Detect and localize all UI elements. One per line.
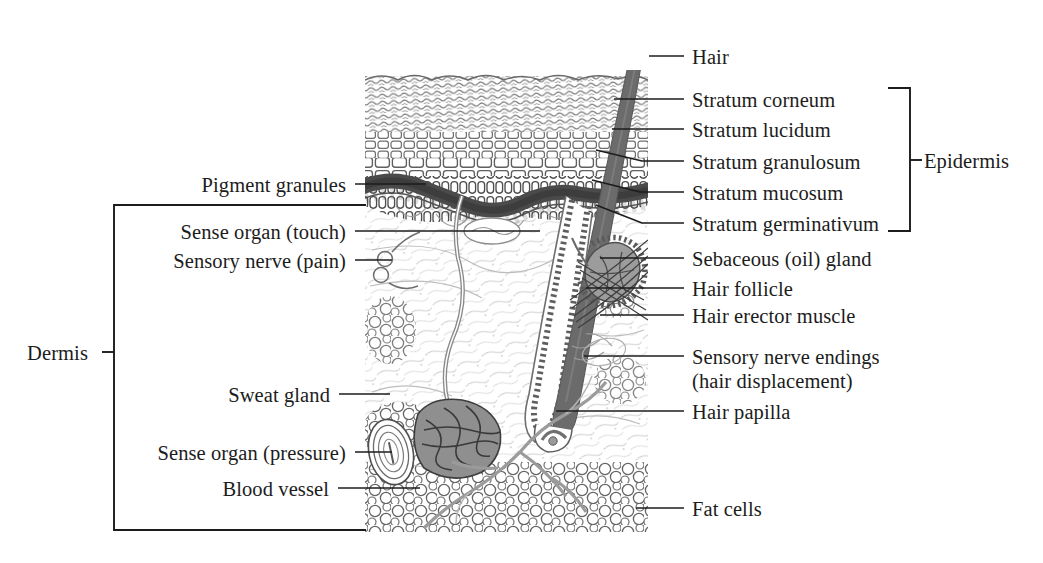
label-hair-papilla: Hair papilla [692,400,791,424]
leader-stratum-granulosum [596,150,684,161]
label-sensory-nerve-endings-sub: (hair displacement) [692,369,853,393]
label-stratum-germinativum: Stratum germinativum [692,212,879,236]
label-sensory-nerve-pain: Sensory nerve (pain) [173,249,346,273]
leader-stratum-mucosum [592,180,684,192]
bracket-label-epidermis: Epidermis [924,149,1009,173]
label-hair: Hair [692,45,729,69]
skin-cross-section-figure: Hair Stratum corneum Stratum lucidum Str… [0,0,1043,563]
label-blood-vessel: Blood vessel [222,477,329,501]
label-sebaceous-gland: Sebaceous (oil) gland [692,247,872,271]
epidermis-bracket [888,88,910,231]
bracket-label-dermis: Dermis [27,341,88,365]
label-fat-cells: Fat cells [692,497,762,521]
label-stratum-mucosum: Stratum mucosum [692,181,843,205]
label-pigment-granules: Pigment granules [201,173,346,197]
label-sweat-gland: Sweat gland [228,383,330,407]
label-stratum-granulosum: Stratum granulosum [692,150,861,174]
label-sense-organ-touch: Sense organ (touch) [181,220,346,244]
leader-lines-and-brackets [0,0,1043,563]
label-stratum-lucidum: Stratum lucidum [692,118,831,142]
label-hair-erector-muscle: Hair erector muscle [692,304,856,328]
label-stratum-corneum: Stratum corneum [692,88,835,112]
label-sense-organ-pressure: Sense organ (pressure) [157,441,346,465]
label-hair-follicle: Hair follicle [692,277,793,301]
leader-stratum-germinativum [596,205,684,223]
label-sensory-nerve-endings: Sensory nerve endings [692,345,880,369]
